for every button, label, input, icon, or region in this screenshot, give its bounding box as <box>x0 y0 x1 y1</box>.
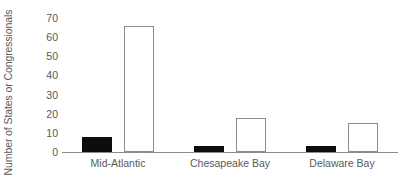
x-category-label: Mid-Atlantic <box>91 158 146 169</box>
bar-chart: Number of States or Congressionals 01020… <box>0 0 410 185</box>
y-tick-label: 20 <box>34 108 58 119</box>
plot-area <box>62 14 400 154</box>
y-tick-label: 10 <box>34 128 58 139</box>
y-tick-label: 50 <box>34 51 58 62</box>
bar-series-filled-1 <box>194 146 224 152</box>
x-category-label: Delaware Bay <box>309 158 374 169</box>
bar-series-hollow-1 <box>236 118 266 153</box>
bar-series-filled-2 <box>306 146 336 152</box>
bar-series-hollow-0 <box>124 26 154 153</box>
x-category-label: Chesapeake Bay <box>190 158 270 169</box>
y-tick-label: 60 <box>34 32 58 43</box>
y-tick-label: 0 <box>34 147 58 158</box>
y-tick-label: 70 <box>34 13 58 24</box>
y-tick-label: 40 <box>34 70 58 81</box>
y-axis-title: Number of States or Congressionals <box>0 0 16 185</box>
bar-series-hollow-2 <box>348 123 378 152</box>
y-axis-tick-labels: 010203040506070 <box>34 0 58 185</box>
bar-series-filled-0 <box>82 137 112 152</box>
y-tick-label: 30 <box>34 89 58 100</box>
